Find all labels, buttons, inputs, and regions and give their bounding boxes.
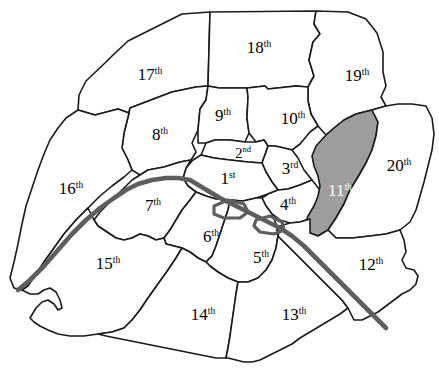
district-number-11: 11 — [328, 181, 344, 200]
district-ordinal-19: th — [362, 67, 370, 77]
district-number-10: 10 — [281, 109, 298, 128]
district-number-5: 5 — [253, 248, 262, 267]
district-number-9: 9 — [215, 106, 224, 125]
district-ordinal-5: th — [262, 249, 270, 259]
district-ordinal-3: rd — [290, 160, 298, 170]
district-ordinal-14: th — [208, 306, 216, 316]
district-ordinal-8: th — [161, 126, 169, 136]
district-ordinal-11: th — [344, 182, 352, 192]
district-ordinal-13: th — [299, 306, 307, 316]
district-ordinal-12: th — [376, 256, 384, 266]
district-ordinal-7: th — [154, 197, 162, 207]
district-number-19: 19 — [345, 66, 362, 85]
district-number-8: 8 — [152, 125, 161, 144]
district-number-6: 6 — [203, 227, 212, 246]
district-number-15: 15 — [96, 254, 113, 273]
district-number-20: 20 — [387, 156, 404, 175]
district-ordinal-16: th — [76, 180, 84, 190]
paris-arrondissements-map: 1st2nd3rd4th5th6th7th8th9th10th11th12th1… — [0, 0, 439, 382]
district-ordinal-18: th — [264, 39, 272, 49]
district-ordinal-6: th — [212, 228, 220, 238]
district-ordinal-10: th — [298, 110, 306, 120]
district-ordinal-4: th — [289, 196, 297, 206]
district-shape-18[interactable] — [208, 11, 320, 89]
district-number-16: 16 — [59, 179, 76, 198]
district-ordinal-9: th — [224, 107, 232, 117]
district-number-2: 2 — [235, 145, 242, 161]
district-number-13: 13 — [282, 305, 299, 324]
district-ordinal-1: st — [229, 170, 236, 180]
district-number-14: 14 — [191, 305, 209, 324]
district-number-18: 18 — [247, 38, 264, 57]
district-number-17: 17 — [138, 65, 156, 84]
district-number-3: 3 — [282, 159, 291, 178]
district-ordinal-20: th — [404, 157, 412, 167]
district-ordinal-2: nd — [242, 144, 251, 154]
district-number-1: 1 — [221, 169, 230, 188]
map-svg-canvas: 1st2nd3rd4th5th6th7th8th9th10th11th12th1… — [0, 0, 439, 382]
district-ordinal-17: th — [155, 66, 163, 76]
district-ordinal-15: th — [113, 255, 121, 265]
district-number-12: 12 — [359, 255, 376, 274]
